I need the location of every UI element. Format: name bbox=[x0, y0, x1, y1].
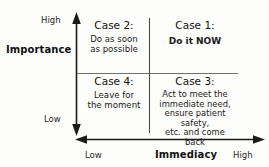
case-4-line-2: the moment bbox=[84, 100, 144, 110]
immediacy-high-label: High bbox=[233, 150, 253, 160]
case-1-title: Case 1: bbox=[155, 19, 235, 31]
quadrant-case-2: Case 2: Do as soon as possible bbox=[80, 19, 148, 71]
importance-low-label: Low bbox=[44, 114, 61, 124]
case-2-body: Do as soon as possible bbox=[84, 34, 144, 54]
case-2-title: Case 2: bbox=[84, 19, 144, 31]
case-2-line-1: Do as soon bbox=[84, 34, 144, 44]
quadrant-case-1: Case 1: Do it NOW bbox=[151, 19, 239, 71]
immediacy-axis-label: Immediacy bbox=[155, 149, 217, 160]
horizontal-axis-left-arrowhead bbox=[75, 135, 87, 144]
case-3-line-3: ensure patient safety, bbox=[155, 109, 235, 128]
horizontal-axis-right-arrowhead bbox=[253, 135, 265, 144]
importance-high-label: High bbox=[41, 15, 61, 25]
immediacy-low-label: Low bbox=[85, 150, 102, 160]
case-3-body: Act to meet the immediate need, ensure p… bbox=[155, 90, 235, 148]
case-2-line-2: as possible bbox=[84, 44, 144, 54]
case-3-title: Case 3: bbox=[155, 75, 235, 87]
case-4-title: Case 4: bbox=[84, 75, 144, 87]
quadrant-case-4: Case 4: Leave for the moment bbox=[80, 75, 148, 133]
case-1-line-1: Do it NOW bbox=[155, 36, 235, 46]
importance-axis-label: Importance bbox=[6, 44, 71, 55]
case-4-line-1: Leave for bbox=[84, 90, 144, 100]
priority-matrix-diagram: Importance Immediacy High Low Low High C… bbox=[0, 0, 269, 167]
case-4-body: Leave for the moment bbox=[84, 90, 144, 110]
quadrant-case-3: Case 3: Act to meet the immediate need, … bbox=[151, 75, 239, 133]
case-3-line-4: etc. and come back bbox=[155, 128, 235, 147]
case-1-body: Do it NOW bbox=[155, 36, 235, 46]
